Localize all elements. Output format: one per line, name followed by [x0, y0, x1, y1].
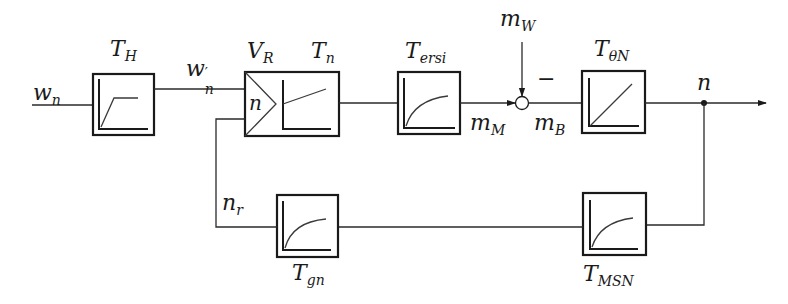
comparator-label: n — [249, 93, 262, 113]
label-base: T — [594, 36, 609, 61]
label-base: T — [311, 38, 326, 63]
input-signal-label: wn — [33, 82, 61, 107]
summing-junction — [516, 97, 529, 110]
feedback-wire-right — [646, 103, 704, 225]
prefilter-label: TH — [110, 38, 137, 63]
label-base: m — [470, 110, 491, 135]
label-sub: θN — [609, 48, 630, 64]
label-base: m — [534, 110, 555, 135]
current-loop-block — [398, 72, 460, 134]
controller-gain-label: VR — [247, 40, 273, 65]
label-sub: gn — [307, 272, 325, 288]
label-base: T — [405, 38, 420, 63]
label-sub: n — [205, 82, 214, 96]
mechanics-block — [582, 71, 645, 133]
label-base: V — [247, 38, 263, 63]
accel-torque-label: mB — [534, 112, 565, 137]
measurement-block — [583, 193, 646, 255]
label-sub: R — [263, 50, 274, 66]
label-base: m — [500, 6, 521, 31]
feedback-filter-block — [277, 195, 338, 257]
label-base: w — [33, 80, 52, 105]
motor-torque-label: mM — [470, 112, 505, 137]
label-base: T — [110, 36, 125, 61]
current-loop-label: Tersi — [405, 40, 446, 65]
label-sub: B — [555, 122, 565, 138]
label-sub: n — [326, 50, 335, 66]
disturbance-label: mW — [500, 8, 535, 33]
label-prime: ′ — [205, 66, 208, 80]
measurement-label: TMSN — [583, 263, 634, 288]
prefiltered-signal-label: w′n — [186, 58, 215, 80]
label-base: n — [249, 91, 262, 115]
label-sub: H — [125, 48, 137, 64]
label-sub: n — [52, 92, 61, 108]
controller-time-constant-label: Tn — [311, 40, 335, 65]
minus-sign-text: − — [537, 66, 555, 91]
feedback-signal-label: nr — [222, 192, 243, 217]
minus-sign: − — [537, 68, 555, 90]
mechanics-label: TθN — [594, 38, 629, 63]
prefilter-block — [93, 74, 154, 135]
label-base: n — [697, 70, 711, 95]
label-sub: W — [521, 18, 535, 34]
label-sub: ersi — [420, 50, 447, 66]
label-base: w — [186, 56, 205, 81]
feedback-filter-label: Tgn — [292, 262, 325, 287]
label-sub: MSN — [598, 273, 634, 289]
output-signal-label: n — [697, 72, 711, 94]
label-base: T — [292, 260, 307, 285]
label-base: T — [583, 261, 598, 286]
label-base: n — [222, 190, 236, 215]
label-sub: r — [236, 202, 243, 218]
label-sub: M — [491, 122, 505, 138]
